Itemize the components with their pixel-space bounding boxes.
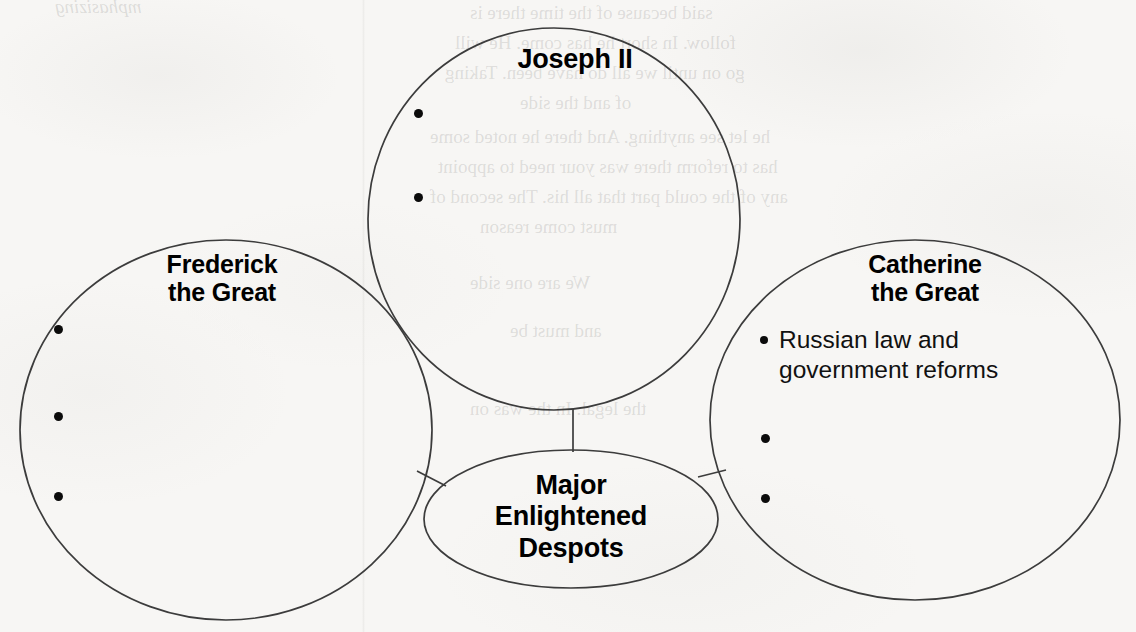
bullet-marker-joseph-1[interactable] <box>414 109 423 118</box>
node-title-center: Major Enlightened Despots <box>438 470 704 564</box>
bullet-marker-joseph-2[interactable] <box>414 193 423 202</box>
node-title-joseph-ii: Joseph II <box>455 44 695 74</box>
node-title-frederick-the-great: Frederick the Great <box>102 250 342 306</box>
bullet-marker-catherine-3[interactable] <box>761 494 770 503</box>
organizer-page: mphasizing said because of the time ther… <box>0 0 1136 632</box>
bullet-item-catherine-1[interactable]: Russian law and government reforms <box>760 325 1080 385</box>
bullet-text-catherine-1: Russian law and government reforms <box>779 325 998 385</box>
bullet-marker-catherine-2[interactable] <box>761 434 770 443</box>
bullet-marker-frederick-2[interactable] <box>54 412 63 421</box>
node-title-catherine-the-great: Catherine the Great <box>805 250 1045 306</box>
node-circle-joseph-ii[interactable] <box>368 28 740 410</box>
bullet-marker-frederick-3[interactable] <box>54 492 63 501</box>
bullet-marker-frederick-1[interactable] <box>54 325 63 334</box>
bullet-marker-catherine-1 <box>760 336 768 344</box>
